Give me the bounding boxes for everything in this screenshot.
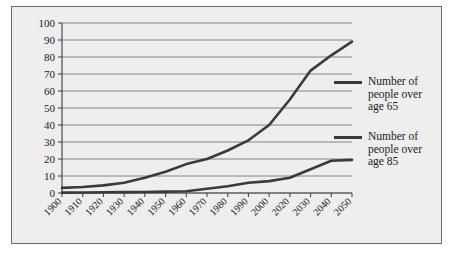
y-axis-tick-label: 40 [44,119,56,131]
x-axis-tick-label: 2030 [290,196,312,218]
legend-swatch-2 [334,136,362,139]
x-axis-tick-label: 2020 [269,196,291,218]
x-axis-tick-label: 1990 [228,196,250,218]
legend-label-1: Number of people over age 65 [368,75,422,113]
x-axis-tick-label: 1930 [104,196,126,218]
x-axis-tick-label: 2040 [311,196,333,218]
x-axis-tick-label: 1950 [145,196,167,218]
x-axis-tick-label: 1910 [62,196,84,218]
gridlines [62,23,352,193]
chart-legend: Number of people over age 65Number of pe… [334,75,442,185]
y-axis-tick-label: 30 [44,136,56,148]
series-line-1 [62,42,352,188]
y-axis-tick-label: 100 [39,17,56,29]
x-axis-tick-label: 1970 [186,196,208,218]
y-axis-tick-label: 90 [44,34,56,46]
legend-label-2: Number of people over age 85 [368,130,422,168]
y-axis-tick-label: 20 [44,153,56,165]
x-axis-tick-labels: 1900191019201930194019501960197019801990… [41,196,353,218]
y-axis-tick-label: 60 [44,85,56,97]
x-axis-tick-label: 1900 [41,196,63,218]
x-axis-tick-label: 1920 [83,196,105,218]
y-axis-tick-label: 50 [44,102,56,114]
x-axis-tick-label: 2000 [249,196,271,218]
x-axis-tick-label: 1940 [124,196,146,218]
legend-swatch-1 [334,81,362,84]
y-axis-tick-label: 80 [44,51,56,63]
x-axis-tick-label: 1960 [166,196,188,218]
y-axis-tick-label: 70 [44,68,56,80]
data-series [62,42,352,193]
y-axis-tick-label: 10 [44,170,56,182]
chart-frame: 0102030405060708090100 19001910192019301… [11,6,442,244]
x-axis-tick-label: 2050 [331,196,353,218]
x-axis-tick-label: 1980 [207,196,229,218]
y-axis-labels: 0102030405060708090100 [39,17,56,199]
